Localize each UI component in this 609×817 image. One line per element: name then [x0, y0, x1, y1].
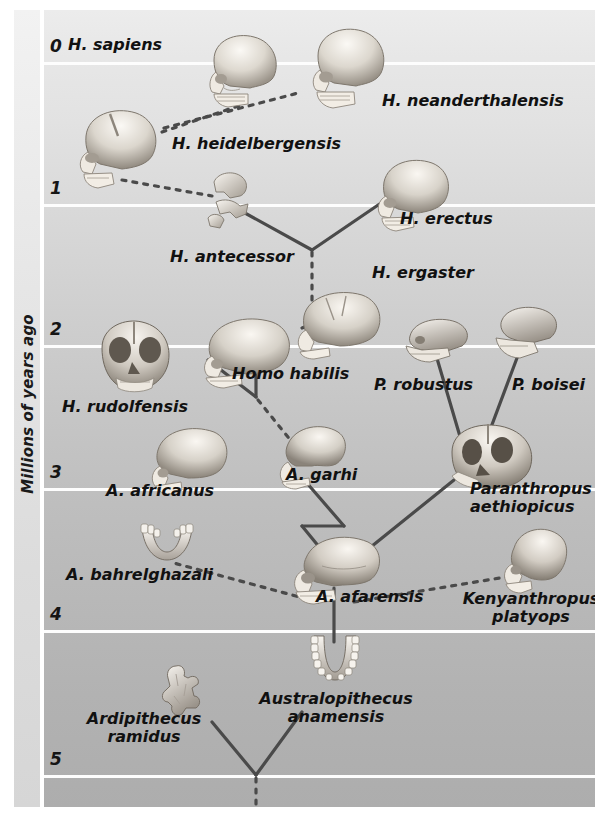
label-a-garhi: A. garhi [286, 466, 357, 484]
tick-label-1: 1 [50, 178, 62, 198]
label-p-robustus: P. robustus [374, 376, 473, 394]
label-p-boisei: P. boisei [512, 376, 585, 394]
label-h-ergaster: H. ergaster [372, 264, 474, 282]
skull-icon-h-sapiens [194, 28, 286, 112]
label-a-africanus: A. africanus [106, 482, 214, 500]
tick-label-3: 3 [50, 462, 62, 482]
label-australopithecus-anamensis: Australopithecus anamensis [228, 690, 444, 726]
tick-label-4: 4 [50, 604, 62, 624]
jaw-icon-a-bahrelghazali [134, 520, 200, 568]
label-kenyanthropus-platyops: Kenyanthropus platyops [456, 590, 595, 626]
figure-root: Millions of years ago [0, 0, 609, 817]
skull-icon-h-heidelbergensis [62, 102, 166, 190]
label-ardipithecus-ramidus: Ardipithecus ramidus [54, 710, 234, 746]
label-h-neanderthalensis: H. neanderthalensis [382, 92, 564, 110]
label-h-sapiens: H. sapiens [68, 36, 162, 54]
label-a-bahrelghazali: A. bahrelghazali [66, 566, 213, 584]
tree-plot-area: H. sapiens H. neanderthalensis [44, 10, 595, 807]
skull-icon-kenyanthropus-platyops [494, 520, 572, 596]
tick-label-2: 2 [50, 319, 62, 339]
y-axis-strip: Millions of years ago [14, 10, 40, 807]
skull-icon-h-neanderthalensis [296, 20, 396, 112]
skull-fragment-icon-p-robustus [396, 310, 480, 372]
jaw-icon-australopithecus-anamensis [302, 634, 368, 692]
label-h-heidelbergensis: H. heidelbergensis [172, 135, 341, 153]
skull-front-icon-h-rudolfensis [86, 314, 186, 400]
tick-label-5: 5 [50, 749, 62, 769]
label-a-afarensis: A. afarensis [316, 588, 424, 606]
label-h-erectus: H. erectus [400, 210, 493, 228]
label-homo-habilis: Homo habilis [232, 365, 349, 383]
skull-icon-h-ergaster [286, 282, 390, 360]
tick-label-0: 0 [50, 36, 62, 56]
label-paranthropus-aethiopicus: Paranthropus aethiopicus [470, 480, 595, 516]
skull-fragment-icon-p-boisei [484, 300, 568, 370]
label-h-antecessor: H. antecessor [170, 248, 294, 266]
skull-fragment-icon-h-antecessor [202, 168, 262, 234]
y-axis-label: Millions of years ago [19, 124, 37, 684]
label-h-rudolfensis: H. rudolfensis [62, 398, 188, 416]
